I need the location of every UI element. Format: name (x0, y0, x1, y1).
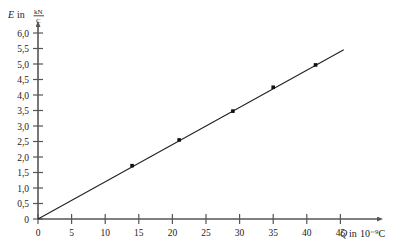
y-axis-symbol: E (7, 9, 14, 20)
x-tick-label: 40 (302, 228, 312, 238)
y-tick-label: 1,0 (17, 184, 29, 194)
y-tick-label: 4,0 (17, 91, 29, 101)
y-axis-unit-numerator: kN (34, 8, 43, 16)
x-axis-symbol: Q (340, 228, 348, 239)
y-tick-label: 5,0 (17, 60, 29, 70)
x-tick-label: 35 (268, 228, 278, 238)
data-point-marker (130, 164, 134, 168)
electric-field-vs-charge-chart: 0 0,5 1,0 1,5 2,0 2,5 3,0 3,5 4,0 4,5 5,… (0, 0, 393, 244)
x-tick-label: 5 (69, 228, 74, 238)
data-point-marker (314, 63, 318, 67)
y-tick-label: 3,5 (17, 106, 29, 116)
best-fit-line (38, 50, 344, 219)
data-point-marker (231, 109, 235, 113)
x-tick-label: 0 (36, 228, 41, 238)
y-tick-label: 1,5 (17, 168, 29, 178)
y-tick-label: 2,0 (17, 153, 29, 163)
y-axis-tick-labels: 0 0,5 1,0 1,5 2,0 2,5 3,0 3,5 4,0 4,5 5,… (17, 29, 29, 225)
x-tick-label: 25 (201, 228, 211, 238)
y-tick-label: 5,5 (17, 44, 29, 54)
y-tick-label: 0,5 (17, 199, 29, 209)
chart-container: 0 0,5 1,0 1,5 2,0 2,5 3,0 3,5 4,0 4,5 5,… (0, 0, 393, 244)
x-axis-unit: 10⁻⁹C (360, 228, 385, 239)
y-tick-label: 2,5 (17, 137, 29, 147)
x-tick-label: 10 (100, 228, 110, 238)
y-axis-unit-denominator: C (36, 17, 41, 25)
x-tick-label: 20 (168, 228, 178, 238)
y-tick-label: 0 (24, 215, 29, 225)
y-axis-title: E in kN C (7, 8, 44, 25)
x-tick-label: 30 (235, 228, 245, 238)
x-axis-title: Q in 10⁻⁹C (340, 228, 385, 239)
x-tick-label: 15 (134, 228, 144, 238)
data-point-marker (177, 138, 181, 142)
y-tick-label: 4,5 (17, 75, 29, 85)
data-point-marker (271, 85, 275, 89)
x-axis-in-word: in (349, 228, 357, 239)
y-tick-label: 3,0 (17, 122, 29, 132)
x-axis-tick-labels: 0 5 10 15 20 25 30 35 40 45 (36, 228, 346, 238)
y-tick-label: 6,0 (17, 29, 29, 39)
y-axis-in-word: in (17, 9, 25, 20)
